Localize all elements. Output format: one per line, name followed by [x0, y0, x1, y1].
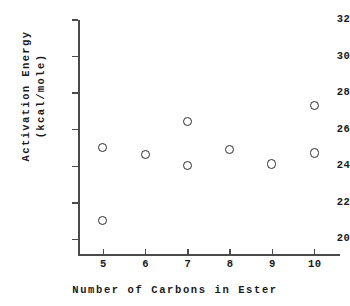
data-point	[225, 145, 234, 154]
y-tick-label: 22	[282, 196, 350, 208]
x-tick-label: 9	[257, 258, 287, 270]
y-tick	[72, 239, 78, 240]
scatter-plot-figure: 20222426283032 5678910 Number of Carbons…	[0, 0, 350, 306]
x-tick	[187, 249, 188, 255]
data-point	[310, 148, 319, 157]
data-point	[183, 117, 192, 126]
data-point	[98, 216, 107, 225]
y-axis-line	[78, 20, 80, 255]
x-tick-label: 5	[88, 258, 118, 270]
y-tick	[72, 166, 78, 167]
x-tick-label: 8	[215, 258, 245, 270]
x-tick	[145, 249, 146, 255]
y-tick-label: 30	[282, 50, 350, 62]
x-tick	[229, 249, 230, 255]
y-tick-label: 28	[282, 86, 350, 98]
y-tick	[72, 92, 78, 93]
data-point	[141, 150, 150, 159]
data-point	[310, 101, 319, 110]
x-tick-label: 7	[173, 258, 203, 270]
y-tick-label: 32	[282, 13, 350, 25]
x-axis-title: Number of Carbons in Ester	[0, 284, 350, 296]
x-tick-label: 10	[300, 258, 330, 270]
y-tick-label: 20	[282, 232, 350, 244]
y-axis-title: Activation Energy(kcal/mole)	[19, 1, 49, 191]
x-tick-label: 6	[131, 258, 161, 270]
y-tick-label: 26	[282, 123, 350, 135]
y-tick	[72, 129, 78, 130]
y-tick	[72, 56, 78, 57]
y-tick	[72, 19, 78, 20]
data-point	[267, 159, 276, 168]
data-point	[183, 161, 192, 170]
x-tick	[314, 249, 315, 255]
x-axis-line	[78, 254, 340, 256]
y-axis-title-line1: Activation Energy	[20, 31, 32, 162]
y-axis-title-line2: (kcal/mole)	[35, 54, 47, 139]
y-tick-label: 24	[282, 159, 350, 171]
x-tick	[103, 249, 104, 255]
x-tick	[272, 249, 273, 255]
y-tick	[72, 202, 78, 203]
data-point	[98, 143, 107, 152]
